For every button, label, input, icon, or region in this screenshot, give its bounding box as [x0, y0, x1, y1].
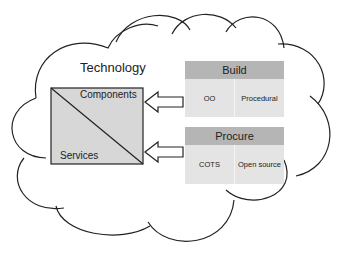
procure-panel: Procure COTS Open source	[185, 127, 284, 184]
arrow-left-icon	[145, 142, 183, 162]
components-label: Components	[80, 89, 137, 100]
build-header: Build	[185, 61, 284, 79]
build-panel: Build OO Procedural	[185, 61, 284, 117]
build-item-oo: OO	[185, 79, 234, 117]
procure-item-open-source: Open source	[234, 145, 284, 184]
cloud-shape	[0, 0, 344, 256]
cloud-label: Technology	[80, 60, 146, 75]
procure-item-cots: COTS	[185, 145, 234, 184]
arrow-left-icon	[145, 92, 183, 112]
services-label: Services	[60, 150, 98, 161]
build-item-procedural: Procedural	[234, 79, 284, 117]
procure-header: Procure	[185, 127, 284, 145]
